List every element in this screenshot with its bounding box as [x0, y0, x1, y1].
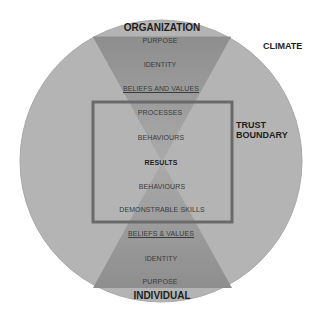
organization-title: ORGANIZATION — [124, 22, 200, 33]
demonstrable-skills-label: DEMONSTRABLE SKILLS — [119, 206, 205, 213]
climate-label: CLIMATE — [263, 41, 302, 51]
bottom-identity-label: IDENTITY — [145, 255, 178, 262]
bottom-behaviours-label: BEHAVIOURS — [139, 183, 185, 190]
top-purpose-label: PURPOSE — [143, 37, 178, 44]
bottom-beliefs-values-label: BELIEFS & VALUES — [128, 230, 194, 237]
processes-label: PROCESSES — [138, 109, 182, 116]
individual-title: INDIVIDUAL — [133, 290, 190, 301]
trust-boundary-label-line2: BOUNDARY — [236, 130, 288, 140]
results-label: RESULTS — [145, 159, 178, 166]
top-behaviours-label: BEHAVIOURS — [138, 134, 184, 141]
bottom-purpose-label: PURPOSE — [143, 278, 178, 285]
trust-boundary-label-line1: TRUST — [236, 120, 266, 130]
top-identity-label: IDENTITY — [144, 61, 177, 68]
top-beliefs-values-label: BELIEFS AND VALUES — [123, 85, 199, 92]
